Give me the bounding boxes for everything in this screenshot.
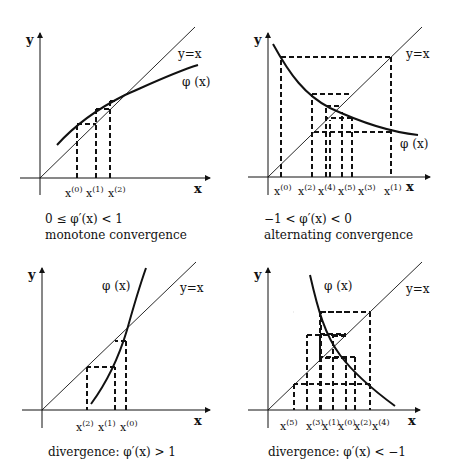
tick-x4: x(4) <box>318 184 336 197</box>
y-axis-label: y <box>26 33 34 46</box>
x-axis-label: x <box>406 180 414 193</box>
tick-x3: x(3) <box>358 184 376 197</box>
y-axis-label: y <box>254 33 262 46</box>
tick-x1: x(1) <box>98 420 116 433</box>
caption-math: divergence: φ′(x) > 1 <box>48 446 176 458</box>
panel-alternating <box>248 27 430 195</box>
cobweb <box>77 101 118 178</box>
identity-label: y=x <box>406 48 430 60</box>
tick-x2: x(2) <box>108 186 126 199</box>
tick-x1: x(1) <box>86 186 104 199</box>
caption-text: monotone convergence <box>45 229 187 241</box>
curve-label: φ (x) <box>102 280 130 292</box>
tick-x5: x(5) <box>338 184 356 197</box>
tick-x2: x(2) <box>354 419 372 432</box>
tick-x0: x(0) <box>274 184 292 197</box>
x-axis-label: x <box>194 414 202 427</box>
tick-x0: x(0) <box>65 186 83 199</box>
tick-x1: x(1) <box>384 184 402 197</box>
identity-label: y=x <box>180 282 204 294</box>
tick-x1: x(1) <box>322 419 340 432</box>
tick-x0: x(0) <box>120 420 138 433</box>
tick-x4: x(4) <box>372 419 390 432</box>
caption-math: 0 ≤ φ′(x) < 1 <box>45 213 123 225</box>
tick-x3: x(3) <box>306 419 324 432</box>
tick-x5: x(5) <box>280 419 298 432</box>
identity-line <box>40 27 195 178</box>
identity-line <box>268 27 422 177</box>
phi-curve <box>57 65 198 145</box>
phi-curve <box>310 275 395 406</box>
curve-label: φ (x) <box>182 76 210 88</box>
y-axis-label: y <box>254 268 262 281</box>
x-axis-label: x <box>408 414 416 427</box>
identity-label: y=x <box>406 283 430 295</box>
caption-math: −1 < φ′(x) < 0 <box>264 213 352 225</box>
y-axis-label: y <box>28 268 36 281</box>
identity-label: y=x <box>178 48 202 60</box>
caption-math: divergence: φ′(x) < −1 <box>268 446 406 458</box>
curve-label: φ (x) <box>400 138 428 150</box>
caption-text: alternating convergence <box>264 229 413 241</box>
curve-label: φ (x) <box>324 280 352 292</box>
tick-x0: x(0) <box>338 419 356 432</box>
tick-x2: x(2) <box>76 420 94 433</box>
cobweb <box>281 57 391 177</box>
tick-x2: x(2) <box>298 184 316 197</box>
x-axis-label: x <box>194 182 202 195</box>
